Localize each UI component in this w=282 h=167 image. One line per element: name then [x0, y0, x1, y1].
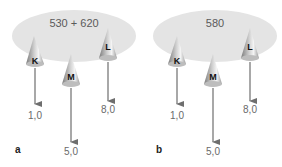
value-m: 5,0: [201, 146, 225, 157]
cone-label-l: L: [102, 42, 114, 52]
panel-b: 580 K M L 1,0 5,0 8,0 b: [141, 0, 282, 167]
panel-letter: a: [15, 144, 21, 155]
ellipse-text: 580: [175, 17, 255, 29]
cone-label-k: K: [171, 56, 183, 66]
cone-label-l: L: [244, 42, 256, 52]
cone-label-m: M: [207, 72, 219, 82]
value-k: 1,0: [23, 110, 47, 121]
value-l: 8,0: [96, 104, 120, 115]
value-l: 8,0: [238, 104, 262, 115]
value-m: 5,0: [59, 146, 83, 157]
panel-letter: b: [156, 144, 162, 155]
ellipse-text: 530 + 620: [34, 17, 114, 29]
panel-a: 530 + 620 K M L 1,0 5,0 8,0 a: [0, 0, 141, 167]
value-k: 1,0: [165, 110, 189, 121]
cone-label-m: M: [65, 72, 77, 82]
cone-label-k: K: [29, 56, 41, 66]
